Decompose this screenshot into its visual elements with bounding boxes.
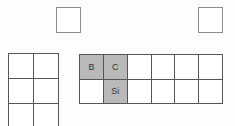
empty-cell	[199, 80, 223, 105]
left-grid-cell	[34, 54, 59, 79]
empty-cell	[175, 55, 199, 80]
empty-cell	[175, 80, 199, 105]
element-cell-carbon: C	[104, 55, 128, 80]
left-block-grid	[8, 53, 59, 126]
element-cell-boron: B	[80, 55, 104, 80]
empty-cell	[80, 80, 104, 105]
empty-cell	[128, 80, 152, 105]
empty-cell	[199, 55, 223, 80]
left-grid-cell	[9, 104, 34, 126]
element-cell-silicon: Si	[104, 80, 128, 105]
empty-cell	[152, 80, 176, 105]
left-grid-cell	[9, 54, 34, 79]
periodic-table-fragment-figure: B C Si	[0, 0, 235, 126]
left-grid-cell	[34, 79, 59, 104]
empty-cell	[128, 55, 152, 80]
left-grid-cell	[9, 79, 34, 104]
floating-square-right	[198, 7, 223, 33]
left-grid-cell	[34, 104, 59, 126]
empty-cell	[152, 55, 176, 80]
floating-square-left	[56, 7, 81, 33]
main-block-grid: B C Si	[79, 54, 223, 104]
